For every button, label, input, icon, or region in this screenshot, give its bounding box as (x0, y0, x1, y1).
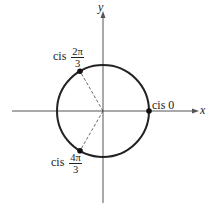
label-cis-4pi-3: cis 4π 3 (51, 152, 82, 175)
x-axis-label: x (200, 104, 205, 116)
label-prefix: cis (152, 98, 165, 112)
fraction-numerator: 4π (69, 152, 82, 164)
radius-4pi-3 (80, 111, 103, 151)
label-value: 0 (168, 98, 174, 112)
point-cis-2pi-3 (77, 68, 83, 74)
fraction-4pi-3: 4π 3 (69, 152, 82, 175)
fraction-2pi-3: 2π 3 (71, 46, 84, 69)
fraction-numerator: 2π (71, 46, 84, 58)
label-prefix: cis (53, 49, 66, 63)
label-cis-0: cis 0 (152, 99, 174, 111)
x-axis-arrow-icon (192, 109, 199, 114)
fraction-denominator: 3 (74, 58, 81, 69)
diagram-canvas (0, 0, 215, 205)
y-axis-label: y (98, 1, 103, 13)
label-prefix: cis (51, 155, 64, 169)
radius-2pi-3 (80, 71, 103, 111)
fraction-denominator: 3 (72, 164, 79, 175)
y-axis (101, 11, 106, 203)
point-cis-0 (146, 108, 152, 114)
label-cis-2pi-3: cis 2π 3 (53, 46, 84, 69)
